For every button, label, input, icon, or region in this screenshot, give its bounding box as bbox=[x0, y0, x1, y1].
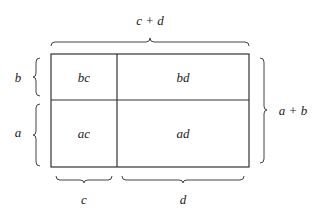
left-label-b: b bbox=[15, 70, 22, 85]
top-brace bbox=[51, 38, 249, 46]
cell-bc: bc bbox=[78, 70, 91, 85]
area-model-diagram: c + d b a a + b c d bc bd ac ad bbox=[0, 0, 326, 217]
bottom-label-c: c bbox=[81, 192, 87, 207]
cell-bd: bd bbox=[177, 70, 191, 85]
left-brace-b bbox=[33, 58, 40, 96]
left-brace-a bbox=[33, 104, 40, 166]
left-label-a: a bbox=[15, 125, 22, 140]
top-label: c + d bbox=[136, 13, 164, 28]
bottom-label-d: d bbox=[180, 192, 187, 207]
cell-ad: ad bbox=[177, 126, 191, 141]
bottom-brace-d bbox=[122, 176, 244, 183]
bottom-brace-c bbox=[56, 176, 112, 183]
right-brace bbox=[260, 58, 267, 163]
right-label: a + b bbox=[279, 103, 308, 118]
cell-ac: ac bbox=[78, 126, 91, 141]
